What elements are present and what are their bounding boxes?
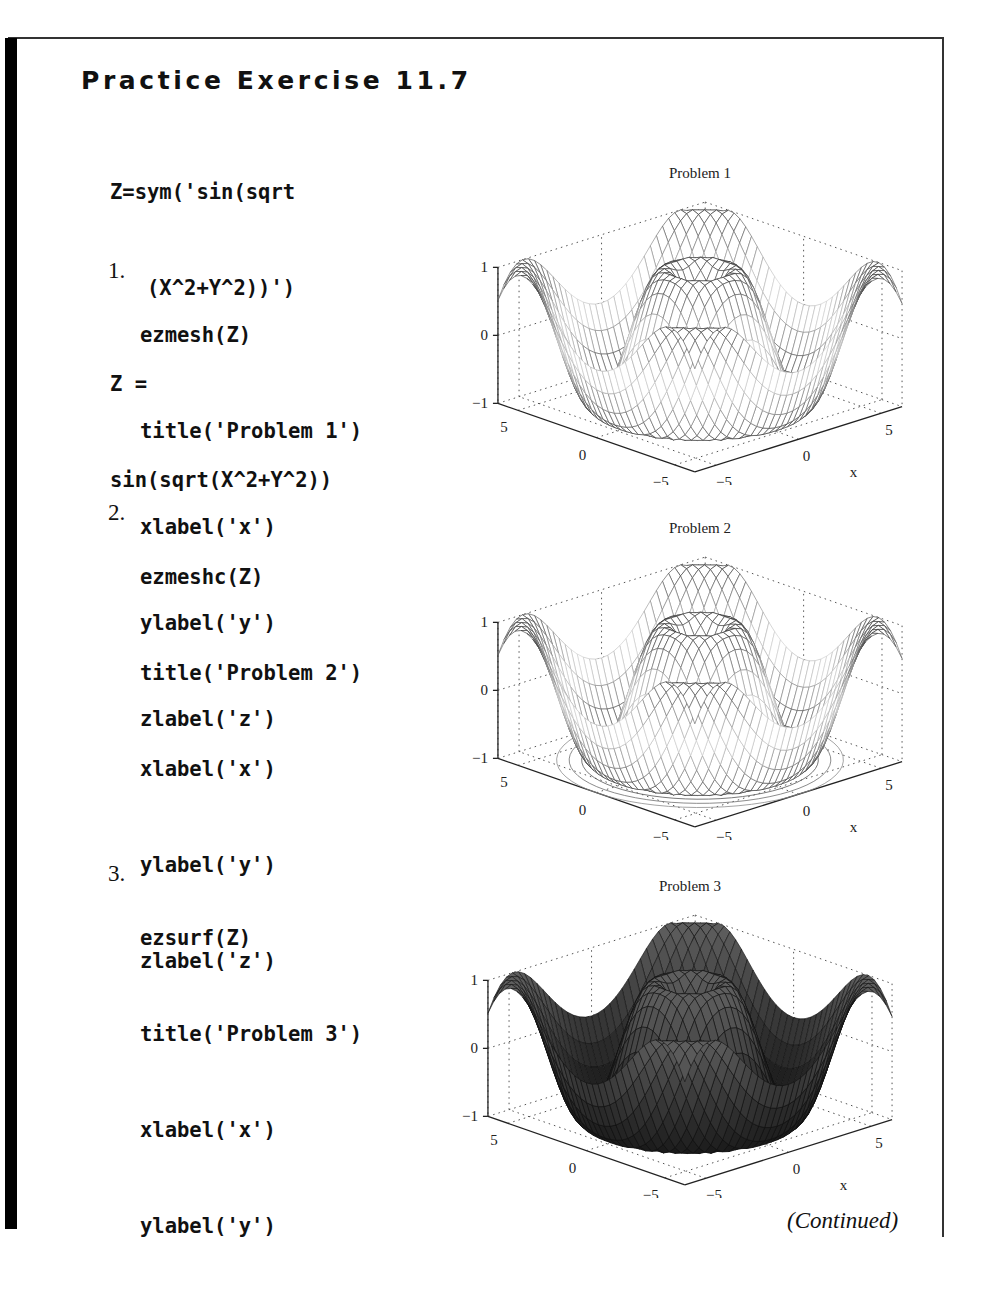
exercise-heading: Practice Exercise 11.7 (81, 66, 472, 95)
surface-plot: Problem 310−150−5−505zyx (460, 868, 920, 1198)
y-tick-label: −5 (643, 1187, 659, 1198)
surface-plot: Problem 210−150−5−505zyx (470, 510, 930, 840)
z-tick-label: 0 (470, 1040, 478, 1056)
x-axis-label: x (850, 819, 858, 835)
x-tick-label: 5 (885, 422, 893, 438)
code-line: xlabel('x') (140, 1114, 362, 1146)
surface-plot: Problem 110−150−5−505zyx (470, 155, 930, 485)
y-tick-label: 5 (500, 774, 508, 790)
page-frame-top-border (8, 37, 944, 39)
x-tick-label: −5 (716, 829, 732, 840)
plot-title: Problem 3 (659, 878, 721, 894)
page-frame-right-border (942, 37, 944, 1237)
plot-problem-1: Problem 110−150−5−505zyx (470, 155, 930, 485)
code-line: ezmesh(Z) (140, 319, 362, 351)
plot-title: Problem 1 (669, 165, 731, 181)
x-tick-label: 0 (803, 803, 811, 819)
y-axis-label: y (596, 484, 604, 485)
x-tick-label: 0 (793, 1161, 801, 1177)
z-tick-label: −1 (462, 1108, 478, 1124)
y-axis-label: y (596, 839, 604, 840)
y-tick-label: 0 (579, 447, 587, 463)
y-tick-label: −5 (653, 474, 669, 485)
code-line: ezmeshc(Z) (140, 561, 362, 593)
code-line: title('Problem 2') (140, 657, 362, 689)
x-tick-label: 0 (803, 448, 811, 464)
z-tick-label: 1 (470, 972, 478, 988)
z-tick-label: −1 (472, 395, 488, 411)
x-axis-label: x (840, 1177, 848, 1193)
plot-problem-2: Problem 210−150−5−505zyx (470, 510, 930, 840)
z-tick-label: 0 (480, 682, 488, 698)
problem-code-block: ezsurf(Z) title('Problem 3') xlabel('x')… (140, 858, 362, 1307)
y-axis-label: y (586, 1197, 594, 1198)
z-tick-label: 0 (480, 327, 488, 343)
x-tick-label: −5 (706, 1187, 722, 1198)
code-line: ylabel('y') (140, 1210, 362, 1242)
z-tick-label: 1 (480, 614, 488, 630)
y-tick-label: 5 (500, 419, 508, 435)
continued-label: (Continued) (787, 1208, 898, 1234)
section-margin-bar (5, 38, 17, 1229)
y-tick-label: 0 (569, 1160, 577, 1176)
code-line: Z=sym('sin(sqrt (110, 176, 332, 208)
y-tick-label: −5 (653, 829, 669, 840)
x-tick-label: −5 (716, 474, 732, 485)
problem-number: 3. (108, 858, 125, 890)
y-tick-label: 0 (579, 802, 587, 818)
problem-number: 2. (108, 497, 125, 529)
x-axis-label: x (850, 464, 858, 480)
code-line: xlabel('x') (140, 753, 362, 785)
z-tick-label: 1 (480, 259, 488, 275)
code-line: ezsurf(Z) (140, 922, 362, 954)
z-tick-label: −1 (472, 750, 488, 766)
code-line: title('Problem 3') (140, 1018, 362, 1050)
y-tick-label: 5 (490, 1132, 498, 1148)
x-tick-label: 5 (875, 1135, 883, 1151)
problem-number: 1. (108, 255, 125, 287)
x-tick-label: 5 (885, 777, 893, 793)
plot-problem-3: Problem 310−150−5−505zyx (460, 868, 920, 1198)
plot-title: Problem 2 (669, 520, 731, 536)
code-line: title('Problem 1') (140, 415, 362, 447)
